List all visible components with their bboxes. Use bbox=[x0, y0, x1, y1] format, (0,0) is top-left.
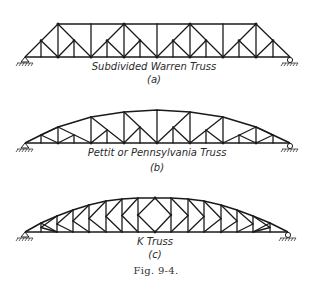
subdivided-warren-truss-diagram: Subdivided Warren Truss (a) bbox=[16, 23, 298, 86]
roller-support-icon bbox=[281, 143, 298, 152]
roller-support-icon bbox=[279, 232, 296, 241]
pettit-truss-diagram: Pettit or Pennsylvania Truss (b) bbox=[16, 110, 298, 173]
truss-b-sublabel: (b) bbox=[150, 162, 164, 173]
truss-b-title: Pettit or Pennsylvania Truss bbox=[88, 147, 227, 158]
pin-support-icon bbox=[16, 232, 33, 241]
pin-support-icon bbox=[16, 57, 33, 66]
roller-support-icon bbox=[281, 57, 298, 66]
k-truss-diagram: K Truss (c) bbox=[16, 197, 296, 260]
truss-a-title: Subdivided Warren Truss bbox=[92, 61, 216, 72]
truss-figure: Subdivided Warren Truss (a) bbox=[0, 0, 313, 292]
truss-c-title: K Truss bbox=[137, 236, 173, 247]
truss-a-sublabel: (a) bbox=[147, 74, 161, 85]
figure-caption: Fig. 9-4. bbox=[134, 265, 179, 276]
truss-c-sublabel: (c) bbox=[148, 249, 161, 260]
pin-support-icon bbox=[16, 143, 33, 152]
